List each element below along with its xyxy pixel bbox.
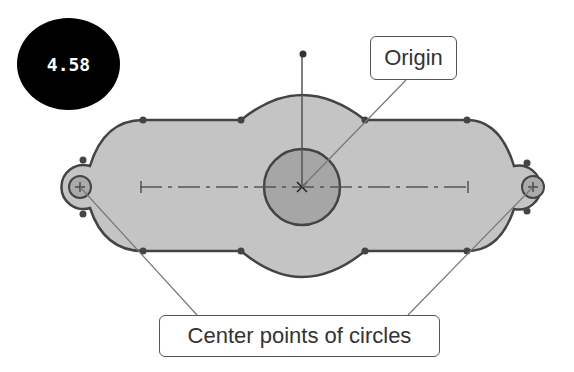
origin-callout: Origin bbox=[370, 36, 457, 80]
figure-number-badge: 4.58 bbox=[17, 18, 120, 110]
vertical-line-endpoint bbox=[300, 51, 307, 58]
center-points-callout: Center points of circles bbox=[159, 315, 440, 357]
